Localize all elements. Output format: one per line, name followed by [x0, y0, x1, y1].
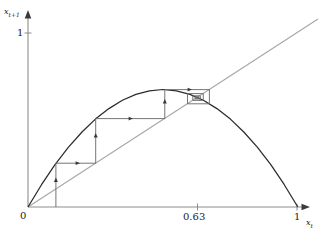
identity-line — [28, 19, 318, 207]
cobweb-trajectory — [56, 90, 210, 207]
x-axis-label: xt — [306, 219, 313, 229]
trajectory-direction-markers — [54, 88, 192, 182]
cobweb-plot-canvas — [0, 0, 321, 232]
cobweb-figure: xt+1 xt 1 0 0.63 1 — [0, 0, 321, 232]
y-tick-label-1: 1 — [17, 28, 23, 38]
x-tick-label-1: 1 — [294, 212, 300, 222]
x-axis — [28, 204, 310, 211]
y-axis — [25, 10, 32, 207]
logistic-map-curve — [28, 90, 298, 208]
x-tick-label-063: 0.63 — [183, 212, 205, 222]
y-axis-label: xt+1 — [4, 8, 20, 18]
x-tick-label-0: 0 — [20, 211, 26, 221]
